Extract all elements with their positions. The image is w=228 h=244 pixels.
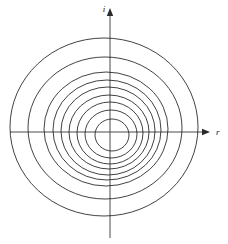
contour-curve: [61, 87, 155, 175]
axes-group: [10, 8, 210, 238]
contour-plot: r i: [0, 0, 228, 244]
horizontal-axis-label: r: [216, 127, 220, 137]
figure-container: r i: [0, 0, 228, 244]
up-arrow-icon: [107, 8, 113, 16]
contour-curve: [10, 38, 198, 216]
right-arrow-icon: [202, 129, 210, 135]
contour-curve: [95, 119, 129, 151]
vertical-axis-label: i: [103, 4, 106, 14]
contour-curve: [28, 57, 182, 199]
contour-curves-group: [10, 38, 198, 216]
